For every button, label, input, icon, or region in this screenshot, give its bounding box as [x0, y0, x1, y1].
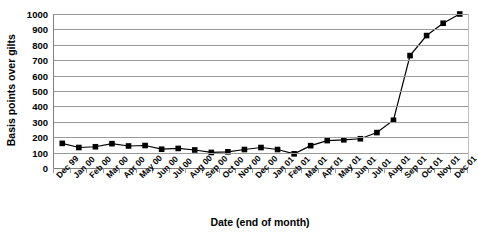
- data-point-marker: [175, 146, 181, 152]
- y-tick-label: 900: [32, 24, 48, 35]
- gridline: [54, 29, 468, 30]
- y-axis-title-text: Basis points over gilts: [6, 34, 17, 146]
- data-point-marker: [142, 143, 148, 149]
- y-tick-label: 600: [32, 70, 48, 81]
- y-tick-label: 1000: [27, 9, 48, 20]
- y-tick-label: 500: [32, 86, 48, 97]
- gridline: [54, 45, 468, 46]
- data-point-marker: [192, 147, 198, 153]
- series-markers: [59, 11, 462, 156]
- gridline: [54, 106, 468, 107]
- x-axis-tick-labels: Dec 99Jan 00Feb 00Mar 00Apr 00May 00Jun …: [0, 173, 478, 213]
- data-point-marker: [275, 147, 281, 153]
- gridline: [54, 76, 468, 77]
- data-point-marker: [308, 143, 314, 149]
- y-tick-label: 0: [43, 163, 48, 174]
- y-tick-label: 700: [32, 55, 48, 66]
- data-point-marker: [59, 141, 65, 147]
- y-tick-label: 800: [32, 39, 48, 50]
- y-tick-label: 100: [32, 147, 48, 158]
- data-point-marker: [93, 144, 99, 150]
- data-point-marker: [374, 130, 380, 136]
- plot-area: [53, 14, 469, 168]
- x-axis-title: Date (end of month): [53, 216, 467, 228]
- data-point-marker: [242, 147, 248, 153]
- series-polyline: [62, 14, 459, 154]
- y-axis-tick-labels: 10009008007006005004003002001000: [20, 0, 51, 180]
- data-point-marker: [407, 53, 413, 59]
- gridline: [54, 137, 468, 138]
- data-point-marker: [159, 146, 165, 152]
- gridline: [54, 91, 468, 92]
- data-point-marker: [76, 145, 82, 151]
- data-point-marker: [324, 138, 330, 144]
- data-point-marker: [258, 145, 264, 151]
- data-point-marker: [109, 141, 115, 147]
- chart-container: Basis points over gilts 1000900800700600…: [0, 0, 478, 237]
- gridline: [54, 14, 468, 15]
- data-point-marker: [440, 20, 446, 26]
- y-tick-label: 400: [32, 101, 48, 112]
- gridline: [54, 60, 468, 61]
- data-point-marker: [424, 33, 430, 39]
- data-point-marker: [126, 143, 132, 149]
- y-axis-title: Basis points over gilts: [0, 0, 22, 180]
- y-tick-label: 300: [32, 116, 48, 127]
- gridline: [54, 122, 468, 123]
- y-tick-label: 200: [32, 132, 48, 143]
